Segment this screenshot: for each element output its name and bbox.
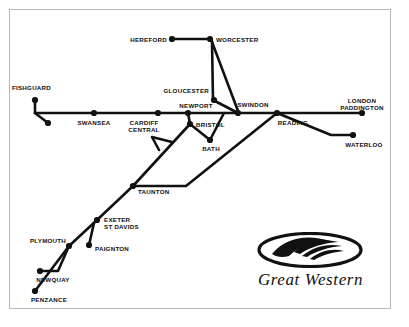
brand-wordmark: Great Western	[238, 270, 383, 290]
railway-map-page: HEREFORDWORCESTERGLOUCESTERFISHGUARDSWAN…	[0, 0, 409, 327]
station-label-worcester: WORCESTER	[216, 36, 258, 43]
station-dot-hereford[interactable]	[169, 36, 175, 42]
station-label-bath: BATH	[202, 145, 220, 152]
station-label-paddington: LONDON PADDINGTON	[340, 97, 384, 112]
station-dot-newport[interactable]	[185, 110, 191, 116]
station-dot-waterloo[interactable]	[350, 132, 356, 138]
station-dot-swindon[interactable]	[235, 110, 241, 116]
station-label-paignton: PAIGNTON	[95, 245, 129, 252]
station-dot-newquay[interactable]	[37, 268, 43, 274]
station-label-bristol: BRISTOL	[196, 121, 225, 128]
station-label-penzance: PENZANCE	[31, 296, 67, 303]
station-dot-paignton[interactable]	[86, 242, 92, 248]
station-label-gloucester: GLOUCESTER	[164, 87, 209, 94]
station-dot-fishguard[interactable]	[32, 97, 38, 103]
station-label-cardiff: CARDIFF CENTRAL	[128, 119, 159, 134]
station-label-hereford: HEREFORD	[130, 36, 167, 43]
station-dot-bath[interactable]	[207, 137, 213, 143]
station-label-waterloo: WATERLOO	[345, 141, 382, 148]
station-label-newport: NEWPORT	[179, 102, 212, 109]
station-label-swindon: SWINDON	[237, 101, 269, 108]
station-label-plymouth: PLYMOUTH	[30, 237, 66, 244]
route-line-taunton-exeter	[97, 186, 133, 220]
station-dot-fishguard-branch[interactable]	[45, 120, 51, 126]
station-dot-penzance[interactable]	[32, 288, 38, 294]
station-dot-taunton[interactable]	[130, 183, 136, 189]
station-dot-swansea[interactable]	[91, 110, 97, 116]
station-dot-worcester[interactable]	[207, 36, 213, 42]
station-dot-exeter[interactable]	[94, 217, 100, 223]
station-dot-cardiff[interactable]	[155, 110, 161, 116]
route-line-worcester-gloucester	[212, 41, 213, 100]
station-label-taunton: TAUNTON	[138, 188, 169, 195]
great-western-branding: Great Western	[238, 232, 383, 302]
station-dot-plymouth[interactable]	[66, 243, 72, 249]
station-dot-reading[interactable]	[274, 110, 280, 116]
station-label-fishguard: FISHGUARD	[12, 84, 51, 91]
station-label-exeter: EXETER ST DAVIDS	[104, 216, 139, 231]
station-label-reading: READING	[278, 119, 308, 126]
station-dot-bristol[interactable]	[187, 121, 193, 127]
station-label-swansea: SWANSEA	[77, 119, 110, 126]
great-western-swoosh-logo	[256, 232, 364, 268]
station-label-newquay: NEWQUAY	[36, 276, 70, 283]
